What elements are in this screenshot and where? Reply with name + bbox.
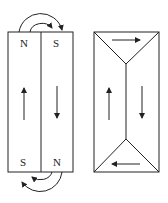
label-bottom-n: N: [53, 156, 61, 168]
top-right-diagonal: [126, 32, 159, 64]
bottom-left-diagonal: [94, 139, 126, 172]
label-bottom-s: S: [20, 156, 26, 168]
right-panel: [94, 32, 159, 172]
top-inner-flux-arc: [30, 23, 52, 32]
top-outer-flux-arc: [19, 14, 62, 32]
bottom-inner-flux-arc: [32, 172, 52, 180]
label-top-n: N: [20, 37, 28, 49]
bottom-right-diagonal: [126, 139, 159, 172]
magnetic-domain-diagram: N S S N: [0, 0, 168, 203]
label-top-s: S: [53, 37, 59, 49]
bottom-outer-flux-arc: [22, 172, 62, 192]
left-panel: N S S N: [8, 14, 73, 192]
top-left-diagonal: [94, 32, 126, 64]
